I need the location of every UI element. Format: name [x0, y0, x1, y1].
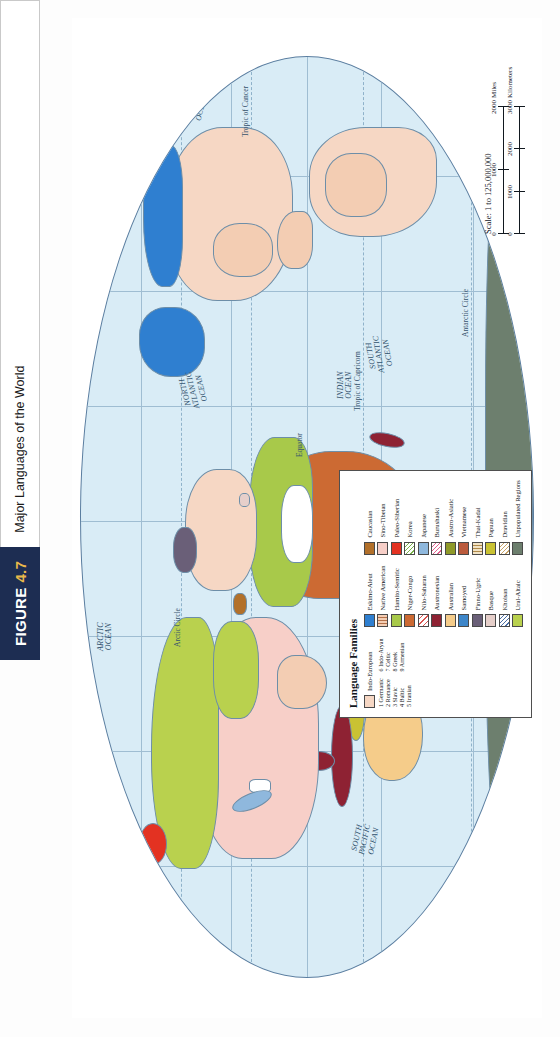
legend-item-samoyed[interactable]: Samoyed [458, 566, 469, 628]
legend-item-burushaski[interactable]: Burushaski [431, 480, 442, 554]
map-scale: Scale: 1 to 125,000,000 0 1000 2000 Mile… [483, 24, 528, 234]
legend-sub-4: 4 Baltic [399, 678, 405, 707]
label-south-pacific-ocean: SOUTH PACIFIC OCEAN [350, 822, 381, 858]
legend-label-indo-european: Indo-European [366, 651, 373, 691]
legend-swatch-papuan [485, 542, 496, 555]
legend-item-sino-tibetan[interactable]: Sino-Tibetan [377, 480, 388, 554]
legend-label-vietnamese: Vietnamese [460, 507, 467, 538]
legend-swatch-thai-kadai [472, 542, 483, 555]
legend-item-paleo-siberian[interactable]: Paleo-Siberian [391, 480, 402, 554]
legend-item-native-american[interactable]: Native American [377, 566, 388, 628]
scale-bar-miles: 0 1000 2000 Miles [496, 24, 511, 234]
world-map: NORTH PACIFIC OCEAN ARCTIC OCEAN NORTH A… [72, 18, 542, 1018]
land-canada-arctic [143, 145, 183, 287]
legend-item-australian[interactable]: Australian [445, 566, 456, 628]
legend-swatch-nilo-saharan [418, 614, 429, 627]
figure-tag-word: FIGURE [12, 588, 29, 646]
legend-swatch-finno-ugric [472, 614, 483, 627]
legend-swatch-unpopulated-regions [512, 542, 523, 555]
legend-label-eskimo-aleut: Eskimo-Aleut [366, 573, 373, 610]
legend-label-thai-kadai: Thai-Kadai [474, 508, 481, 538]
legend-item-nilo-saharan[interactable]: Nilo-Saharan [418, 566, 429, 628]
label-south-atlantic-ocean: SOUTH ATLANTIC OCEAN [364, 333, 395, 375]
legend-item-papuan[interactable]: Papuan [485, 480, 496, 554]
land-india [277, 655, 327, 709]
legend-column-2: Eskimo-Aleut Native American Hamito-Semi… [364, 566, 524, 628]
legend-sub-6: 6 Indo-Aryan [378, 638, 384, 671]
legend-item-austronesian[interactable]: Austronesian [431, 566, 442, 628]
legend-swatch-samoyed [458, 614, 469, 627]
legend-label-basque: Basque [487, 591, 494, 610]
legend-item-niger-congo[interactable]: Niger-Congo [404, 566, 415, 628]
legend-sub-1: 1 Germanic [378, 678, 384, 707]
legend-label-japanese: Japanese [420, 514, 427, 537]
scale-bar-kilometers: 0 1000 2000 3000 Kilometers [512, 24, 527, 234]
legend-label-australian: Australian [447, 583, 454, 610]
legend-label-dravidian: Dravidian [501, 511, 508, 537]
legend-sublist-left: 1 Germanic 2 Romance 3 Slavic 4 Baltic 5… [378, 678, 412, 707]
legend-item-japanese[interactable]: Japanese [418, 480, 429, 554]
miles-tick-1000: 1000 [490, 163, 498, 177]
legend-label-finno-ugric: Finno-Ugric [474, 578, 481, 611]
legend-swatch-ural-altaic [512, 614, 523, 627]
label-arctic-ocean: ARCTIC OCEAN [97, 622, 114, 651]
miles-unit: Miles [490, 82, 498, 98]
km-tick-1000: 1000 [506, 185, 514, 199]
land-mexico [277, 211, 313, 269]
legend-item-hamito-semitic[interactable]: Hamito-Semitic [391, 566, 402, 628]
km-tick-3000: 3000 [506, 100, 514, 114]
legend-swatch-austronesian [431, 614, 442, 627]
km-tick-0: 0 [506, 232, 514, 236]
legend-sub-5: 5 Iranian [406, 678, 412, 707]
land-finno-ugric [173, 527, 197, 573]
legend-item-caucasian[interactable]: Caucasian [364, 480, 375, 554]
legend-item-thai-kadai[interactable]: Thai-Kadai [472, 480, 483, 554]
legend-item-eskimo-aleut[interactable]: Eskimo-Aleut [364, 566, 375, 628]
legend-label-unpopulated-regions: Unpopulated Regions [514, 480, 521, 537]
label-arctic-circle: Arctic Circle [173, 608, 182, 647]
legend-label-nilo-saharan: Nilo-Saharan [420, 575, 427, 610]
legend-label-papuan: Papuan [487, 518, 494, 537]
land-greenland [139, 307, 205, 377]
legend-item-korea[interactable]: Korea [404, 480, 415, 554]
legend-swatch-sino-tibetan [377, 542, 388, 555]
legend-column-indo-european: Indo-European 1 Germanic 2 Romance 3 Sla… [364, 638, 415, 708]
figure-tag-number: 4.7 [12, 561, 29, 583]
legend-item-austro-asiatic[interactable]: Austro-Asiatic [445, 480, 456, 554]
label-north-pacific-ocean-west: NORTH PACIFIC OCEAN [107, 815, 141, 852]
legend-item-unpopulated-regions[interactable]: Unpopulated Regions [512, 480, 523, 554]
legend-item-indo-european[interactable]: Indo-European [364, 638, 375, 708]
legend-label-caucasian: Caucasian [366, 510, 373, 537]
legend-item-vietnamese[interactable]: Vietnamese [458, 480, 469, 554]
legend-title: Language Families [347, 480, 359, 708]
km-tick-2000: 2000 [506, 142, 514, 156]
legend-label-samoyed: Samoyed [460, 586, 467, 611]
legend-item-ural-altaic[interactable]: Ural-Altaic [512, 566, 523, 628]
label-north-pacific-ocean-east: NORTH PACIFIC OCEAN [178, 87, 210, 123]
label-antarctic-circle: Antarctic Circle [461, 289, 470, 337]
legend-item-khoisan[interactable]: Khoisan [499, 566, 510, 628]
legend-swatch-caucasian [364, 542, 375, 555]
legend-item-basque[interactable]: Basque [485, 566, 496, 628]
legend-swatch-khoisan [499, 614, 510, 627]
legend-column-3: Caucasian Sino-Tibetan Paleo-Siberian Ko… [364, 480, 524, 554]
miles-tick-0: 0 [490, 232, 498, 236]
legend-item-dravidian[interactable]: Dravidian [499, 480, 510, 554]
legend-swatch-native-american [377, 614, 388, 627]
legend-swatch-burushaski [431, 542, 442, 555]
land-paleo-siberian [139, 823, 167, 865]
legend-label-austronesian: Austronesian [433, 576, 440, 611]
legend-swatch-niger-congo [404, 614, 415, 627]
figure-caption-bar: FIGURE 4.7 Major Languages of the World [0, 0, 40, 660]
label-indian-ocean: INDIAN OCEAN [337, 371, 354, 399]
legend-label-sino-tibetan: Sino-Tibetan [379, 503, 386, 537]
legend-sub-9: 9 Armenian [399, 638, 405, 671]
legend-sub-7: 7 Celtic [385, 638, 391, 671]
land-amazon-native [325, 153, 387, 217]
legend-item-finno-ugric[interactable]: Finno-Ugric [472, 566, 483, 628]
legend-sub-3: 3 Slavic [392, 678, 398, 707]
legend-swatch-australian [445, 614, 456, 627]
legend-swatch-austro-asiatic [445, 542, 456, 555]
land-madagascar [368, 429, 406, 450]
land-native-american-west [213, 223, 273, 277]
